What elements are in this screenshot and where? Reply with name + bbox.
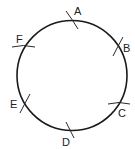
point-D: D — [62, 122, 74, 148]
point-F: F — [12, 33, 35, 47]
label-F: F — [16, 33, 23, 45]
label-D: D — [62, 136, 70, 148]
point-E: E — [10, 94, 30, 113]
arc-tick-F — [12, 46, 35, 48]
point-A: A — [66, 5, 82, 29]
label-B: B — [123, 42, 130, 54]
label-E: E — [10, 98, 17, 110]
main-circle — [17, 21, 127, 131]
label-A: A — [74, 5, 82, 17]
circle-diagram: A B C D E F — [0, 0, 135, 149]
label-C: C — [118, 107, 126, 119]
